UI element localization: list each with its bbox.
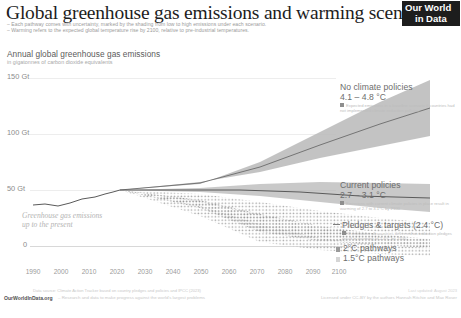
x-tick-2080: 2080 [278,268,293,275]
dash-swatch-icon [333,224,340,225]
scenario-note: Expected emissions in a baseline scenari… [340,103,458,113]
x-tick-2000: 2000 [54,268,69,275]
scenario-name: No climate policies [340,82,458,92]
historical-annotation-line-2: up to the present [22,220,102,229]
logo-line-2: in Data [405,13,457,24]
scenario-name: 2°C pathways [336,243,397,253]
scenario-name: 1.5°C pathways [336,253,404,263]
scenario-temperature: 4.1 – 4.8 °C [340,92,458,102]
x-tick-2060: 2060 [222,268,237,275]
x-tick-1990: 1990 [26,268,41,275]
footer-source: Data source: Climate Action Tracker base… [33,288,201,293]
x-tick-2030: 2030 [138,268,153,275]
swatch-icon [340,201,344,205]
x-tick-2050: 2050 [194,268,209,275]
y-axis-title: Annual global greenhouse gas emissions [7,49,160,59]
historical-annotation-line-1: Greenhouse gas emissions [22,211,102,220]
scenario-note: If emissions all countries delivered on … [342,231,460,241]
footer-tagline: – Research and data to make progress aga… [58,295,205,300]
x-tick-2100: 2100 [332,268,347,275]
swatch-icon [336,247,340,252]
x-tick-2040: 2040 [166,268,181,275]
swatch-icon [336,257,340,262]
our-world-in-data-logo[interactable]: Our World in Data [402,1,460,26]
scenario-label-2c-pathways[interactable]: 2°C pathways [336,243,397,253]
x-axis: 1990 2000 2010 2020 2030 2040 2050 2060 … [0,268,461,280]
scenario-label-no-climate-policies[interactable]: No climate policies 4.1 – 4.8 °C Expecte… [340,82,458,113]
swatch-icon [340,103,344,107]
swatch-icon [342,231,346,235]
footer-license[interactable]: Licensed under CC-BY by the authors Hann… [321,295,457,300]
historical-annotation: Greenhouse gas emissions up to the prese… [22,211,102,229]
subtitle-block: – Each pathway comes with uncertainty, m… [7,21,397,34]
y-axis-subtitle: in gigatonnes of carbon dioxide equivale… [7,59,113,65]
chart-page: Global greenhouse gas emissions and warm… [0,0,461,318]
scenario-label-pledges-targets[interactable]: Pledges & targets (2.4 °C) If emissions … [333,220,460,241]
historical-emissions-line [33,190,120,206]
x-tick-2020: 2020 [110,268,125,275]
scenario-label-1-5c-pathways[interactable]: 1.5°C pathways [336,253,404,263]
x-tick-2070: 2070 [250,268,265,275]
footer-last-updated: Last updated: August 2023 [408,288,457,293]
scenario-note: Emissions with current climate policies … [340,201,458,211]
footer-brand[interactable]: OurWorldInData.org [4,295,53,301]
x-tick-2010: 2010 [82,268,97,275]
scenario-name: Current policies [340,180,458,190]
logo-line-1: Our World [405,2,457,13]
scenario-label-current-policies[interactable]: Current policies 2.7 – 3.1 °C Emissions … [340,180,458,211]
scenario-name: Pledges & targets (2.4 °C) [333,220,460,230]
subtitle-line-2: – Warming refers to the expected global … [7,27,397,33]
scenario-temperature: 2.7 – 3.1 °C [340,190,458,200]
x-tick-2090: 2090 [306,268,321,275]
